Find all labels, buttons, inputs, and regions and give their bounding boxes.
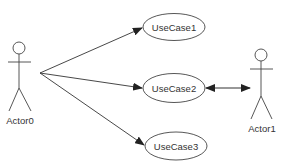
actor-head-icon [13,42,25,54]
use-case-3-label: UseCase3 [154,141,198,152]
use-case-1-label: UseCase1 [152,22,196,33]
actor-head-icon [255,49,267,61]
relation-actor0-usecase3[interactable] [40,73,144,145]
relation-actor0-usecase2[interactable] [40,73,142,88]
actor-1-label: Actor1 [248,123,275,134]
use-case-2-label: UseCase2 [152,83,196,94]
use-case-2[interactable]: UseCase2 [143,74,205,103]
use-case-diagram: Actor0 Actor1 UseCase1 UseCase2 UseCase3 [0,0,284,166]
actor-1[interactable] [250,49,273,119]
use-case-3[interactable]: UseCase3 [145,132,207,160]
actor-0-label: Actor0 [6,115,33,126]
actor-0[interactable] [8,42,31,111]
relation-actor0-usecase1[interactable] [40,28,142,73]
use-case-1[interactable]: UseCase1 [143,14,205,41]
